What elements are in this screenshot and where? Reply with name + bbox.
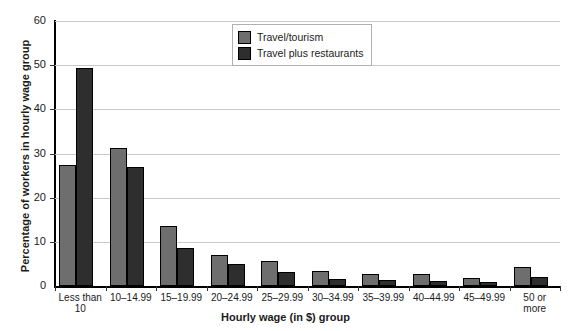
bar [127, 167, 144, 286]
bar-chart: Percentage of workers in hourly wage gro… [0, 0, 571, 331]
y-tick-label: 50 [6, 58, 46, 70]
legend-swatch-travel-tourism [238, 31, 251, 44]
bar-group [409, 21, 460, 286]
bar [228, 264, 245, 286]
bar [413, 274, 430, 286]
bar [211, 255, 228, 286]
bar [329, 279, 346, 286]
bar [531, 277, 548, 286]
bar [379, 280, 396, 286]
bar-group [459, 21, 510, 286]
x-tick-mark [409, 286, 410, 291]
bar [110, 148, 127, 286]
y-tick-label: 10 [6, 235, 46, 247]
x-tick-mark [358, 286, 359, 291]
x-tick-mark [257, 286, 258, 291]
bar-group [510, 21, 561, 286]
bar [463, 278, 480, 286]
legend-swatch-travel-plus-restaurants [238, 47, 251, 60]
bar [76, 68, 93, 286]
x-tick-mark [560, 286, 561, 291]
bar [430, 281, 447, 286]
legend-label-travel-plus-restaurants: Travel plus restaurants [257, 47, 363, 59]
bar [278, 272, 295, 286]
bar [514, 267, 531, 286]
bar-group [55, 21, 106, 286]
legend-label-travel-tourism: Travel/tourism [257, 31, 323, 43]
bar [177, 248, 194, 286]
x-tick-mark [55, 286, 56, 291]
x-tick-mark [207, 286, 208, 291]
bar [480, 282, 497, 286]
x-tick-mark [106, 286, 107, 291]
bar [261, 261, 278, 286]
chart-legend: Travel/tourism Travel plus restaurants [232, 24, 372, 66]
y-tick-label: 30 [6, 147, 46, 159]
bar [59, 165, 76, 286]
x-tick-mark [308, 286, 309, 291]
y-tick-label: 60 [6, 14, 46, 26]
x-tick-label-line: 50 or [503, 292, 567, 303]
x-tick-mark [459, 286, 460, 291]
x-tick-mark [156, 286, 157, 291]
y-tick-label: 0 [6, 279, 46, 291]
legend-item: Travel plus restaurants [238, 45, 363, 61]
x-tick-mark [510, 286, 511, 291]
y-tick-label: 20 [6, 191, 46, 203]
bar-group [106, 21, 157, 286]
bar-group [156, 21, 207, 286]
y-tick-label: 40 [6, 102, 46, 114]
bar [312, 271, 329, 286]
legend-item: Travel/tourism [238, 29, 363, 45]
x-axis-title: Hourly wage (in $) group [0, 311, 571, 323]
bar [362, 274, 379, 286]
bar [160, 226, 177, 286]
